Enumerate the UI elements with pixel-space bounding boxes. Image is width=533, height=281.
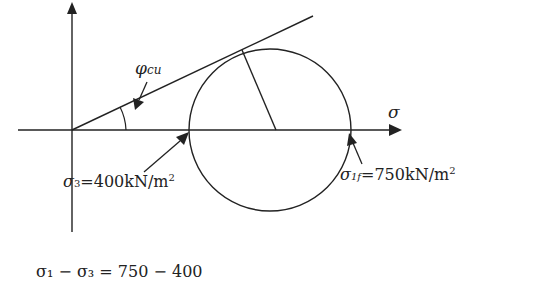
- formula-partial: σ₁ − σ₃ = 750 − 400: [36, 262, 202, 281]
- sigma1-arrow-icon: [347, 133, 357, 146]
- sigma-axis-label: σ: [388, 102, 400, 122]
- radius-line: [242, 50, 276, 130]
- tau-axis-arrow-icon: [67, 2, 77, 14]
- sigma-axis-arrow-icon: [389, 124, 402, 136]
- sigma1-pointer: [353, 143, 362, 164]
- angle-arc: [120, 107, 126, 130]
- failure-envelope: [72, 16, 313, 130]
- phi-arrow-icon: [133, 98, 144, 110]
- sigma3-label: σ3=400kN/m2: [63, 172, 175, 191]
- phi-cu-label: φcu: [135, 58, 161, 78]
- sigma3-pointer: [144, 141, 180, 172]
- sigma1f-label: σ1f=750kN/m2: [340, 165, 456, 184]
- phi-pointer: [139, 82, 147, 100]
